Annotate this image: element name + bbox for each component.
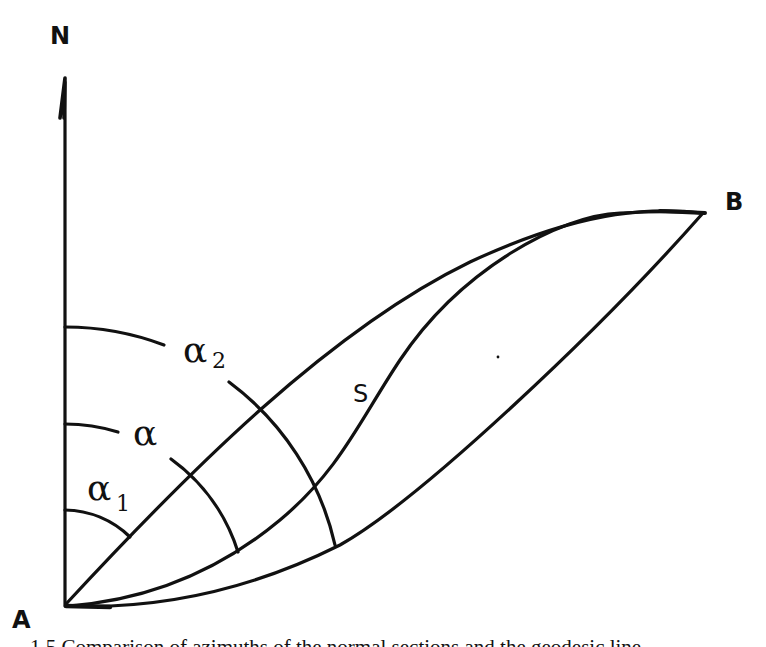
normal-section-upper-curve [66,211,703,604]
alpha2-arc-bottom [229,382,335,545]
geodesic-s-label: S [353,380,368,408]
point-a-base [66,606,110,607]
north-arrow-icon [60,78,65,118]
alpha-arc-bottom [171,459,238,552]
geodesic-s-curve [68,212,703,606]
alpha2-subscript: 2 [212,348,226,373]
alpha-label: α [133,412,157,453]
point-a-label: A [12,606,31,634]
alpha2-arc-top [65,327,164,345]
north-label: N [50,22,70,50]
figure-caption: 1.5 Comparison of azimuths of the normal… [30,633,766,647]
point-b-label: B [725,188,743,216]
normal-section-lower-curve [70,213,703,606]
alpha-arc-top [65,424,118,432]
stray-dot [497,356,500,359]
azimuth-diagram: N A B S α 1 α α 2 [0,0,766,647]
alpha1-label: α [87,467,111,508]
point-b-tip [660,211,705,213]
alpha1-subscript: 1 [116,491,130,516]
alpha2-label: α [183,329,207,370]
